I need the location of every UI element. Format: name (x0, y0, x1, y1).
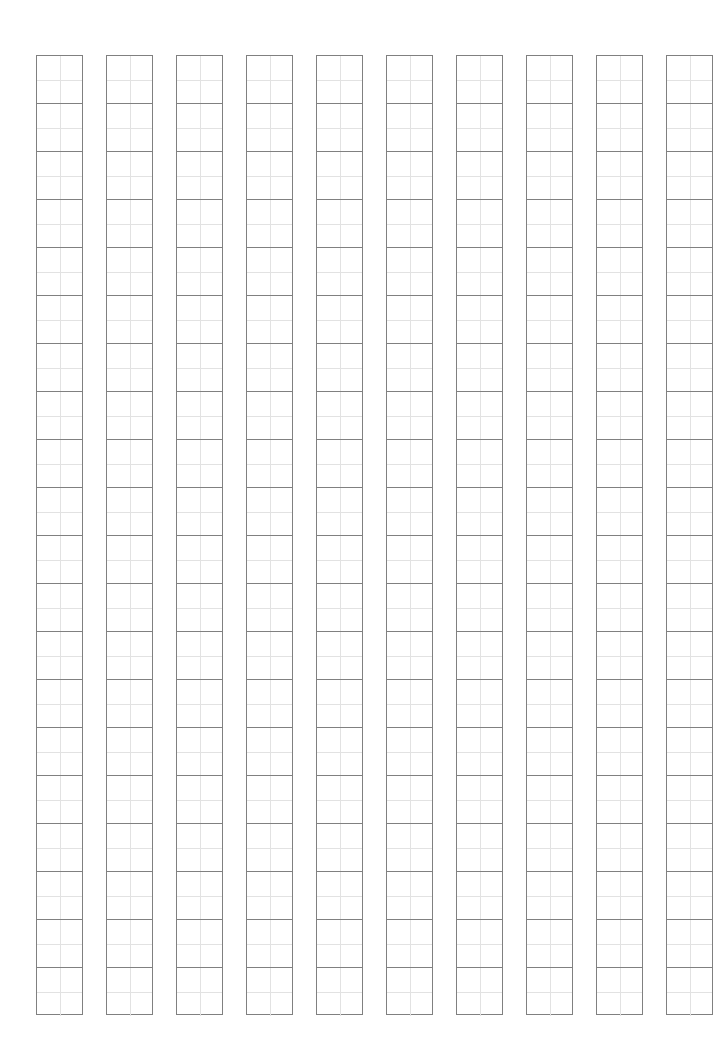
grid-cell (317, 200, 362, 248)
grid-cell (107, 728, 152, 776)
grid-cell (107, 584, 152, 632)
grid-cell (107, 104, 152, 152)
grid-cell (37, 152, 82, 200)
grid-cell (667, 488, 712, 536)
grid-cell (247, 248, 292, 296)
grid-cell (527, 968, 572, 1016)
grid-column-1 (36, 55, 83, 1015)
grid-cell (597, 776, 642, 824)
grid-cell (527, 200, 572, 248)
grid-cell (527, 440, 572, 488)
grid-cell (457, 200, 502, 248)
grid-cell (457, 296, 502, 344)
grid-cell (317, 584, 362, 632)
grid-cell (457, 776, 502, 824)
grid-cell (527, 536, 572, 584)
grid-cell (457, 440, 502, 488)
grid-cell (597, 56, 642, 104)
grid-cell (247, 440, 292, 488)
grid-cell (177, 968, 222, 1016)
grid-cell (387, 584, 432, 632)
grid-cell (37, 824, 82, 872)
grid-cell (247, 968, 292, 1016)
grid-cell (107, 824, 152, 872)
grid-cell (597, 824, 642, 872)
grid-column-2 (106, 55, 153, 1015)
grid-cell (317, 152, 362, 200)
grid-cell (527, 488, 572, 536)
grid-cell (247, 728, 292, 776)
grid-cell (457, 152, 502, 200)
grid-column-3 (176, 55, 223, 1015)
grid-cell (317, 248, 362, 296)
grid-cell (457, 488, 502, 536)
grid-cell (597, 104, 642, 152)
grid-cell (107, 920, 152, 968)
grid-cell (177, 536, 222, 584)
grid-cell (177, 344, 222, 392)
grid-cell (247, 104, 292, 152)
grid-cell (667, 152, 712, 200)
grid-cell (107, 968, 152, 1016)
grid-cell (107, 440, 152, 488)
grid-cell (667, 296, 712, 344)
grid-cell (527, 152, 572, 200)
grid-cell (457, 824, 502, 872)
grid-cell (457, 104, 502, 152)
grid-cell (37, 632, 82, 680)
grid-column-6 (386, 55, 433, 1015)
grid-cell (527, 56, 572, 104)
grid-cell (597, 872, 642, 920)
grid-cell (387, 632, 432, 680)
grid-cell (107, 296, 152, 344)
grid-cell (457, 632, 502, 680)
grid-cell (247, 536, 292, 584)
grid-cell (527, 920, 572, 968)
grid-column-4 (246, 55, 293, 1015)
grid-cell (37, 392, 82, 440)
grid-cell (387, 824, 432, 872)
grid-cell (177, 488, 222, 536)
grid-cell (37, 920, 82, 968)
grid-cell (387, 728, 432, 776)
grid-cell (527, 392, 572, 440)
grid-cell (177, 56, 222, 104)
grid-cell (317, 632, 362, 680)
grid-cell (597, 344, 642, 392)
grid-cell (37, 104, 82, 152)
grid-cell (107, 680, 152, 728)
grid-cell (597, 920, 642, 968)
grid-cell (247, 392, 292, 440)
grid-cell (317, 872, 362, 920)
grid-cell (247, 920, 292, 968)
grid-cell (107, 872, 152, 920)
grid-column-7 (456, 55, 503, 1015)
grid-cell (317, 392, 362, 440)
grid-cell (387, 344, 432, 392)
grid-cell (667, 392, 712, 440)
grid-cell (37, 776, 82, 824)
grid-cell (177, 296, 222, 344)
grid-cell (177, 392, 222, 440)
grid-cell (457, 584, 502, 632)
grid-cell (37, 536, 82, 584)
practice-sheet (0, 0, 723, 1056)
grid-cell (317, 296, 362, 344)
grid-cell (597, 440, 642, 488)
grid-column-10 (666, 55, 713, 1015)
grid-cell (107, 56, 152, 104)
grid-cell (527, 584, 572, 632)
grid-cell (387, 536, 432, 584)
grid-cell (37, 584, 82, 632)
grid-cell (597, 536, 642, 584)
grid-cell (387, 104, 432, 152)
grid-cell (667, 200, 712, 248)
grid-cell (457, 56, 502, 104)
grid-cell (667, 968, 712, 1016)
grid-cell (247, 872, 292, 920)
grid-cell (667, 920, 712, 968)
grid-cell (457, 680, 502, 728)
grid-cell (597, 584, 642, 632)
grid-cell (527, 776, 572, 824)
grid-cell (457, 344, 502, 392)
